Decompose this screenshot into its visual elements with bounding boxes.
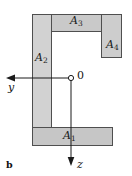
area-a2-label: A2: [35, 52, 48, 63]
z-axis-label: z: [77, 159, 83, 170]
area-a4-label: A4: [106, 39, 119, 50]
area-a4-subscript: 4: [114, 43, 119, 52]
area-a4-letter: A: [106, 38, 114, 51]
area-a3-letter: A: [70, 14, 78, 27]
area-a1-letter: A: [63, 129, 71, 142]
area-a1-subscript: 1: [71, 134, 76, 143]
panel-label: b: [6, 160, 13, 170]
y-axis-label: y: [8, 82, 14, 93]
origin-marker-circle: [68, 75, 73, 80]
area-a3-subscript: 3: [78, 19, 83, 28]
area-a2-subscript: 2: [43, 56, 48, 65]
area-a1-label: A1: [63, 130, 76, 141]
area-a3-label: A3: [70, 15, 83, 26]
area-a2-rect: [33, 15, 52, 128]
area-a2-letter: A: [35, 51, 43, 64]
figure-container: A1 A2 A3 A4 y z 0 b: [0, 0, 132, 176]
cross-section-diagram: [0, 0, 132, 176]
origin-label: 0: [77, 70, 84, 81]
z-axis-arrowhead: [68, 157, 75, 166]
